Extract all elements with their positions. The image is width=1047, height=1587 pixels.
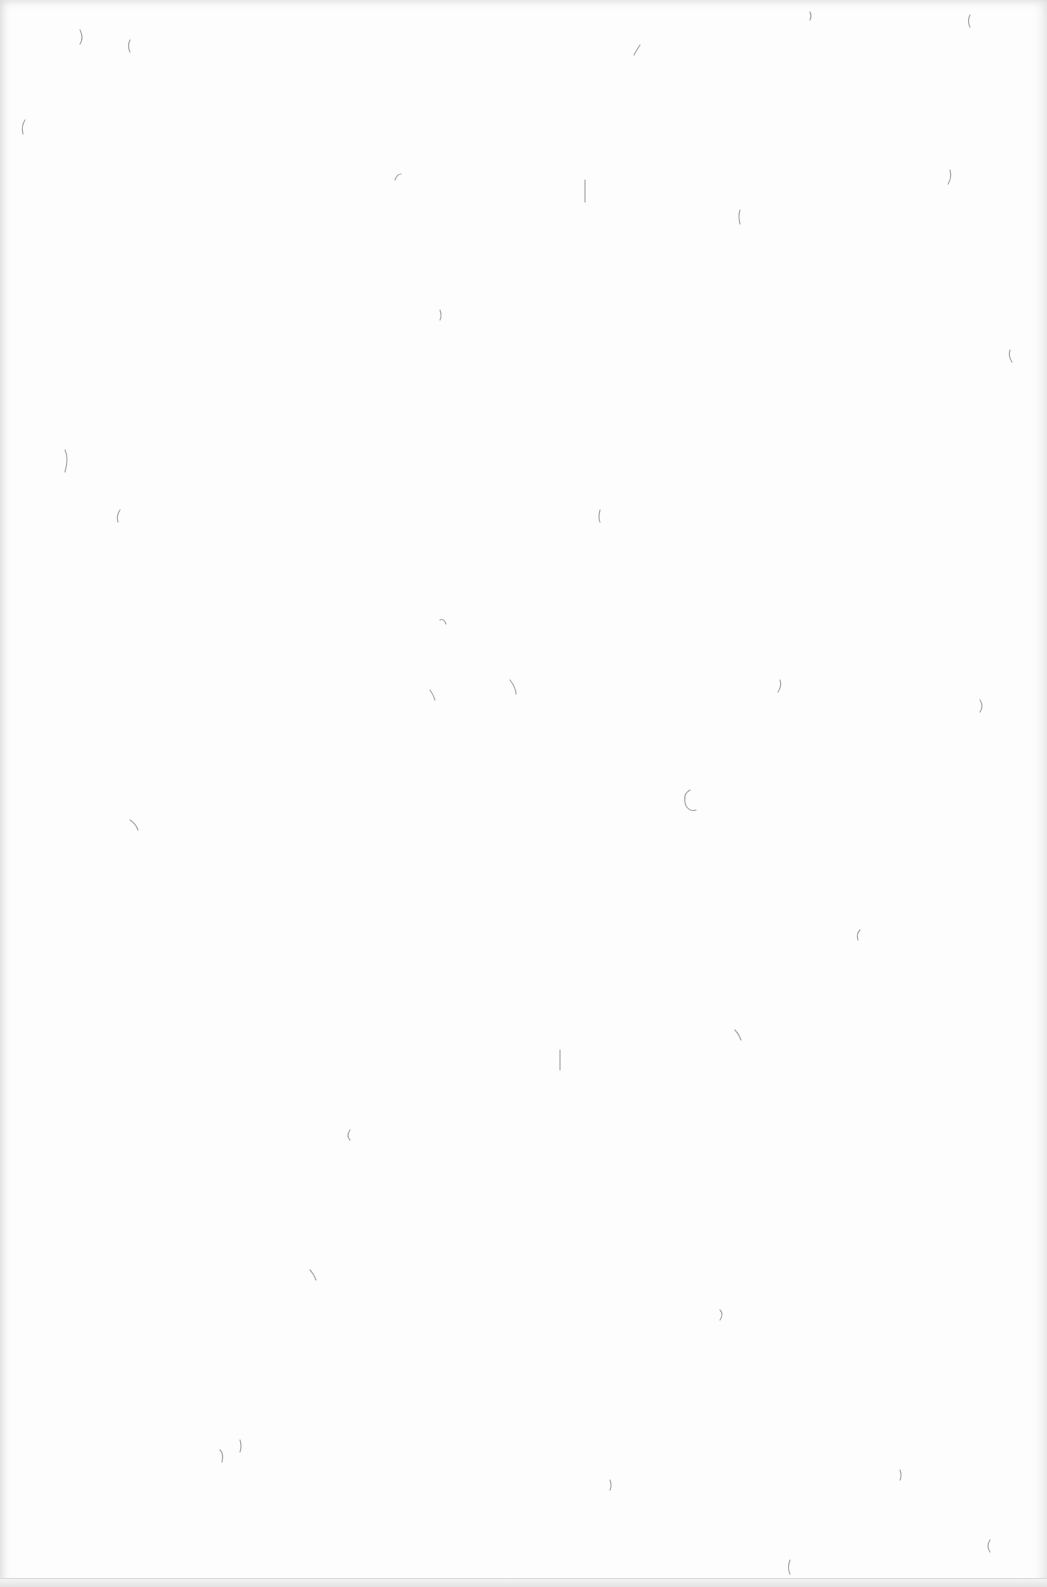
- paper-sheet: [0, 0, 1047, 1587]
- paper-bottom-edge: [0, 1578, 1047, 1587]
- paper-fibers: [0, 0, 1047, 1587]
